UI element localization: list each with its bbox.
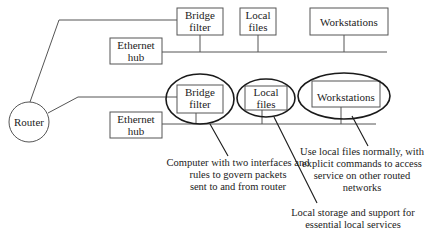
- bottom-ethernet-hub-label-1: Ethernet: [117, 113, 154, 125]
- bridge-note-line-1: Computer with two interfaces and: [167, 157, 311, 168]
- workstations-note-line-2: explicit commands to access: [302, 158, 422, 169]
- local-files-note-line-1: Local storage and support for: [291, 207, 415, 218]
- bridge-note: Computer with two interfaces and rules t…: [167, 157, 311, 192]
- top-ethernet-hub-box: Ethernet hub: [110, 38, 162, 64]
- local-files-note-line-2: essential local services: [305, 219, 401, 230]
- top-ethernet-hub-label-1: Ethernet: [117, 39, 154, 51]
- bottom-ethernet-hub-label-2: hub: [128, 125, 145, 137]
- bridge-note-line-2: rules to govern packets: [189, 169, 286, 180]
- top-workstations-label: Workstations: [320, 16, 378, 28]
- top-bridge-filter-label-1: Bridge: [185, 9, 215, 21]
- bottom-bridge-filter-label-1: Bridge: [185, 86, 215, 98]
- bottom-workstations-label: Workstations: [317, 91, 375, 103]
- top-local-files-label-2: files: [249, 21, 268, 33]
- network-diagram: Router Bridge filter Local files Worksta…: [0, 0, 436, 235]
- top-bridge-filter-label-2: filter: [189, 21, 211, 33]
- bottom-local-files-label-2: files: [257, 98, 276, 110]
- workstations-note-line-1: Use local files normally, with: [300, 146, 425, 157]
- bottom-ethernet-hub-box: Ethernet hub: [110, 112, 162, 138]
- bottom-local-files-box: Local files: [245, 86, 287, 110]
- bridge-note-leader: [210, 124, 228, 156]
- bottom-bridge-filter-label-2: filter: [189, 98, 211, 110]
- workstations-note: Use local files normally, with explicit …: [300, 146, 425, 193]
- workstations-note-leader: [352, 116, 368, 146]
- bottom-local-files-label-1: Local: [253, 86, 278, 98]
- bottom-bridge-filter-box: Bridge filter: [177, 85, 223, 113]
- local-files-note: Local storage and support for essential …: [291, 207, 415, 230]
- top-local-files-label-1: Local: [245, 9, 270, 21]
- workstations-note-line-4: networks: [343, 182, 382, 193]
- top-network: Bridge filter Local files Workstations E…: [110, 8, 388, 64]
- router-label: Router: [14, 116, 44, 128]
- router-bottom-link: [48, 97, 177, 113]
- bottom-workstations-box: Workstations: [312, 81, 380, 107]
- bridge-note-line-3: sent to and from router: [190, 181, 287, 192]
- top-local-files-box: Local files: [240, 8, 276, 35]
- top-ethernet-hub-label-2: hub: [128, 51, 145, 63]
- router-node: Router: [9, 102, 49, 142]
- top-workstations-box: Workstations: [310, 8, 388, 35]
- bottom-network: Bridge filter Local files Workstations E…: [110, 73, 390, 138]
- top-bridge-filter-box: Bridge filter: [177, 8, 223, 35]
- workstations-note-line-3: service on other routed: [314, 170, 411, 181]
